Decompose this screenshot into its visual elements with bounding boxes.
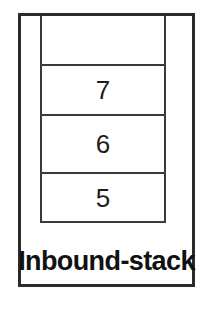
stack-caption: Inbound-stack xyxy=(22,239,191,283)
stack-slot-empty xyxy=(42,16,164,66)
stack-container: 7 6 5 xyxy=(40,16,166,223)
stack-slot-middle: 6 xyxy=(42,116,164,174)
stack-slot-top: 7 xyxy=(42,66,164,116)
inbound-stack-diagram: 7 6 5 Inbound-stack xyxy=(18,13,195,287)
stack-slot-bottom: 5 xyxy=(42,174,164,221)
